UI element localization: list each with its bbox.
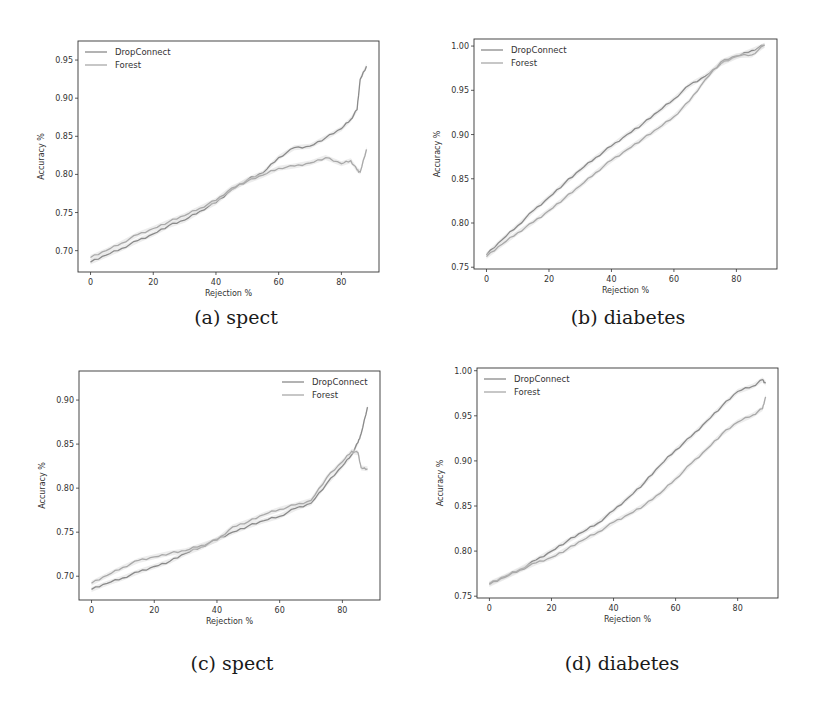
y-tick-label: 0.75 <box>454 592 472 601</box>
x-tick-label: 40 <box>211 278 221 287</box>
chart-c: 0204060800.700.750.800.850.90Rejection %… <box>38 371 380 626</box>
x-tick-label: 80 <box>733 604 743 613</box>
legend: DropConnectForest <box>481 45 567 68</box>
legend-label-dropconnect: DropConnect <box>115 47 171 57</box>
legend-label-forest: Forest <box>312 390 339 400</box>
x-tick-label: 80 <box>731 275 741 284</box>
y-tick-label: 0.90 <box>454 457 472 466</box>
legend-label-forest: Forest <box>511 58 538 68</box>
x-tick-label: 40 <box>608 604 618 613</box>
y-axis-label: Accuracy % <box>436 459 445 506</box>
plot-frame <box>477 368 778 598</box>
band-forest <box>92 449 368 586</box>
x-tick-label: 80 <box>336 278 346 287</box>
y-tick-label: 1.00 <box>451 42 469 51</box>
y-tick-label: 0.85 <box>451 175 469 184</box>
y-tick-label: 0.85 <box>454 502 472 511</box>
chart-b: 0204060800.750.800.850.900.951.00Rejecti… <box>433 39 777 295</box>
figure: 0204060800.700.750.800.850.900.95Rejecti… <box>0 0 817 708</box>
line-forest <box>489 397 765 585</box>
y-tick-label: 0.95 <box>454 412 472 421</box>
y-axis-label: Accuracy % <box>37 133 46 180</box>
legend: DropConnectForest <box>484 374 570 397</box>
legend-label-forest: Forest <box>115 60 142 70</box>
legend-label-forest: Forest <box>514 387 541 397</box>
y-tick-label: 0.90 <box>56 396 74 405</box>
y-tick-label: 0.70 <box>56 572 74 581</box>
x-tick-label: 0 <box>484 275 489 284</box>
x-tick-label: 60 <box>669 275 679 284</box>
x-tick-label: 20 <box>546 604 556 613</box>
x-axis-label: Rejection % <box>604 615 652 624</box>
band-dropconnect <box>489 377 765 586</box>
x-tick-label: 20 <box>544 275 554 284</box>
x-tick-label: 20 <box>148 278 158 287</box>
x-tick-label: 60 <box>275 606 285 615</box>
band-dropconnect <box>91 64 367 265</box>
x-tick-label: 40 <box>606 275 616 284</box>
y-tick-label: 1.00 <box>454 367 472 376</box>
y-axis-label: Accuracy % <box>38 462 47 509</box>
y-tick-label: 0.90 <box>55 94 73 103</box>
legend-label-dropconnect: DropConnect <box>312 377 368 387</box>
x-tick-label: 60 <box>274 278 284 287</box>
caption-a: (a) spect <box>194 306 278 328</box>
caption-b: (b) diabetes <box>571 306 686 328</box>
y-tick-label: 0.80 <box>451 219 469 228</box>
y-tick-label: 0.85 <box>56 440 74 449</box>
x-tick-label: 0 <box>88 278 93 287</box>
x-tick-label: 0 <box>89 606 94 615</box>
legend: DropConnectForest <box>85 47 171 70</box>
legend-label-dropconnect: DropConnect <box>514 374 570 384</box>
y-tick-label: 0.75 <box>451 263 469 272</box>
x-axis-label: Rejection % <box>206 617 254 626</box>
chart-d: 0204060800.750.800.850.900.951.00Rejecti… <box>436 367 778 624</box>
y-tick-label: 0.70 <box>55 247 73 256</box>
plot-frame <box>78 41 379 272</box>
legend-label-dropconnect: DropConnect <box>511 45 567 55</box>
x-tick-label: 20 <box>149 606 159 615</box>
band-forest <box>489 394 765 587</box>
y-tick-label: 0.80 <box>454 547 472 556</box>
x-tick-label: 60 <box>671 604 681 613</box>
plot-frame <box>474 39 777 269</box>
caption-d: (d) diabetes <box>565 652 680 674</box>
caption-c: (c) spect <box>191 652 274 674</box>
x-tick-label: 0 <box>487 604 492 613</box>
line-dropconnect <box>489 380 765 584</box>
y-tick-label: 0.75 <box>56 528 74 537</box>
chart-a: 0204060800.700.750.800.850.900.95Rejecti… <box>37 41 379 298</box>
charts-canvas: 0204060800.700.750.800.850.900.95Rejecti… <box>0 0 817 708</box>
line-forest <box>487 45 765 256</box>
y-tick-label: 0.95 <box>451 86 469 95</box>
y-tick-label: 0.85 <box>55 132 73 141</box>
y-tick-label: 0.75 <box>55 209 73 218</box>
y-tick-label: 0.80 <box>56 484 74 493</box>
line-dropconnect <box>91 66 367 262</box>
x-axis-label: Rejection % <box>602 286 650 295</box>
x-tick-label: 40 <box>212 606 222 615</box>
legend: DropConnectForest <box>282 377 368 400</box>
y-tick-label: 0.80 <box>55 170 73 179</box>
y-axis-label: Accuracy % <box>433 130 442 177</box>
x-tick-label: 80 <box>337 606 347 615</box>
y-tick-label: 0.90 <box>451 131 469 140</box>
y-tick-label: 0.95 <box>55 56 73 65</box>
x-axis-label: Rejection % <box>205 289 253 298</box>
